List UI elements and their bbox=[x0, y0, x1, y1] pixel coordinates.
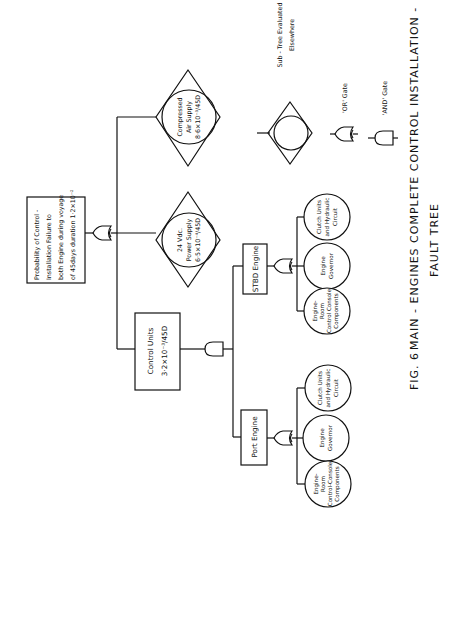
legend-and-label: 'AND' Gate bbox=[381, 81, 388, 116]
legend-or-label: 'OR' Gate bbox=[341, 83, 348, 113]
stbd-basic-event-clutch: Clutch Units and Hydraulic Circuit bbox=[304, 194, 350, 240]
caption-subtitle: FAULT TREE bbox=[428, 203, 441, 277]
event-label-line: Engine bbox=[320, 256, 327, 276]
event-label-line: Components bbox=[334, 466, 341, 501]
legend-subtree-symbol bbox=[257, 102, 312, 164]
caption-fig-number: FIG. 6 bbox=[408, 352, 421, 390]
control-units-event: Control Units 3·2×10⁻³/45D bbox=[135, 313, 180, 390]
port-engine-event: Port Engine bbox=[241, 410, 267, 465]
stbd-basic-event-console: Engine- Room Control Console Components bbox=[304, 288, 350, 334]
compressed-air-line-3: 8·6×10⁻³/45D bbox=[194, 95, 201, 139]
event-label-line: Governor bbox=[328, 252, 334, 279]
port-basic-event-governor: Engine Governor bbox=[303, 415, 349, 461]
figure-caption: FIG. 6 MAIN - ENGINES COMPLETE CONTROL I… bbox=[408, 7, 441, 390]
top-event: Probability of Control - Installation Fa… bbox=[27, 189, 85, 283]
legend-or-gate-icon bbox=[335, 127, 353, 141]
power-supply-line-1: 24 Vdc. bbox=[176, 228, 183, 252]
or-gate-icon bbox=[274, 431, 292, 445]
or-gate-icon bbox=[274, 259, 292, 273]
top-event-line-2: Installation Failure to bbox=[45, 214, 52, 280]
event-label-line: Control-Console bbox=[327, 461, 333, 506]
power-supply-line-3: 6·5×10⁻⁴/45D bbox=[194, 218, 201, 262]
event-label-line: Clutch Units bbox=[316, 200, 322, 234]
or-gate-icon bbox=[93, 226, 111, 240]
port-basic-event-clutch: Clutch Units and Hydraulic Circuit bbox=[305, 365, 351, 411]
port-engine-label: Port Engine bbox=[250, 416, 259, 458]
event-label-line: Circuit bbox=[332, 207, 338, 226]
top-event-line-4: of 45days duration 1·2×10⁻² bbox=[69, 189, 77, 280]
subtree-compressed-air: Compressed Air Supply 8·6×10⁻³/45D bbox=[156, 70, 220, 166]
event-label-line: Engine- bbox=[313, 473, 320, 494]
legend-and-gate-icon bbox=[375, 131, 393, 145]
stbd-engine-label: STBD Engine bbox=[251, 245, 260, 292]
top-event-line-1: Probability of Control - bbox=[33, 210, 41, 280]
top-event-line-3: both Engine during voyage bbox=[57, 195, 65, 280]
event-label-line: Clutch Units bbox=[317, 371, 323, 405]
legend: Sub - Tree Evaluated Elsewhere 'OR' Gate… bbox=[257, 3, 398, 164]
event-label-line: Engine- bbox=[312, 300, 319, 321]
event-label-line: Control Console bbox=[326, 288, 332, 333]
legend-subtree-label-1: Sub - Tree Evaluated bbox=[276, 3, 283, 68]
control-units-line-2: 3·2×10⁻³/45D bbox=[160, 325, 169, 376]
legend-subtree-label-2: Elsewhere bbox=[288, 19, 295, 51]
compressed-air-line-1: Compressed bbox=[176, 97, 184, 136]
event-label-line: Room bbox=[320, 476, 326, 492]
control-units-box bbox=[135, 313, 180, 390]
event-label-line: Engine bbox=[319, 428, 326, 448]
and-gate-icon bbox=[205, 342, 223, 356]
power-supply-line-2: Power Supply bbox=[185, 218, 193, 261]
fault-tree-diagram: Probability of Control - Installation Fa… bbox=[0, 0, 460, 634]
event-label-line: Governor bbox=[327, 424, 333, 451]
event-label-line: Room bbox=[319, 303, 325, 319]
control-units-line-1: Control Units bbox=[146, 327, 155, 374]
stbd-basic-event-governor: Engine Governor bbox=[304, 243, 350, 289]
stbd-engine-event: STBD Engine bbox=[243, 244, 267, 294]
subtree-power-supply: 24 Vdc. Power Supply 6·5×10⁻⁴/45D bbox=[156, 192, 220, 287]
event-label-line: Components bbox=[333, 293, 340, 328]
event-label-line: and Hydraulic bbox=[324, 198, 331, 237]
event-label-line: and Hydraulic bbox=[325, 369, 332, 408]
event-label-line: Circuit bbox=[333, 378, 339, 397]
compressed-air-line-2: Air Supply bbox=[185, 101, 193, 133]
port-basic-event-console: Engine- Room Control-Console Components bbox=[305, 461, 351, 507]
caption-title: MAIN - ENGINES COMPLETE CONTROL INSTALLA… bbox=[408, 7, 421, 350]
